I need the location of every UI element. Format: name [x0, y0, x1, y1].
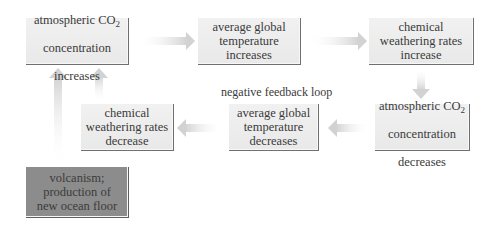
node-text: atmospheric CO [379, 99, 461, 113]
node-text: chemical weathering rates increase [380, 20, 462, 62]
subscript: 2 [461, 105, 466, 115]
arrow-left-icon [177, 119, 223, 137]
node-volcanism: volcanism; production of new ocean floor [26, 167, 129, 218]
feedback-loop-diagram: atmospheric CO2 concentration increases … [0, 0, 498, 230]
node-temperature-increases: average global temperature increases [198, 18, 301, 65]
arrow-right-icon [137, 32, 195, 50]
node-temperature-decreases: average global temperature decreases [229, 104, 319, 151]
node-text: average global temperature increases [212, 20, 285, 62]
node-text: atmospheric CO [34, 13, 116, 27]
node-text: average global temperature decreases [237, 106, 310, 148]
node-weathering-increase: chemical weathering rates increase [369, 18, 474, 65]
node-text: concentration [43, 41, 111, 55]
node-text: increases [54, 69, 100, 83]
node-weathering-decrease: chemical weathering rates decrease [81, 104, 174, 151]
node-co2-increases: atmospheric CO2 concentration increases [26, 18, 129, 65]
node-co2-decreases: atmospheric CO2 concentration decreases [375, 104, 470, 151]
arrow-right-icon [308, 32, 367, 50]
arrow-left-icon [328, 119, 370, 137]
node-text: concentration [388, 127, 456, 141]
subscript: 2 [116, 19, 121, 29]
loop-title: negative feedback loop [221, 85, 332, 100]
node-text: volcanism; production of new ocean floor [37, 171, 118, 213]
node-text: decreases [398, 155, 446, 169]
node-text: chemical weathering rates decrease [86, 106, 168, 148]
